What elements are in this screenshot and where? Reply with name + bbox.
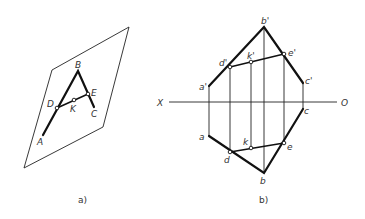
point-k [249, 146, 253, 150]
label-e-prime: e' [288, 48, 296, 58]
point-d [228, 150, 232, 154]
label-c-prime: c' [305, 76, 312, 86]
point-k [72, 98, 76, 102]
point-d-prime [228, 65, 232, 69]
label-k: k [243, 137, 249, 147]
figure-a: A B C D E K a) [24, 27, 129, 205]
projection-diagram: A B C D E K a) X O a' b' c' d' [0, 0, 365, 219]
label-B: B [75, 60, 81, 70]
figure-b: X O a' b' c' d' e' k' a b c d e k [156, 16, 348, 205]
point-e [86, 92, 90, 96]
caption-a: a) [78, 195, 87, 205]
label-e: e [287, 142, 293, 152]
label-C: C [91, 109, 98, 119]
axis-label-x: X [156, 98, 164, 108]
label-d-prime: d' [219, 58, 227, 68]
label-k-prime: k' [247, 51, 255, 61]
label-D: D [47, 99, 54, 109]
label-A: A [36, 137, 43, 147]
label-a: a [199, 132, 205, 142]
label-d: d [224, 155, 230, 165]
axis-label-o: O [341, 98, 348, 108]
caption-b: b) [259, 195, 268, 205]
point-d [55, 106, 59, 110]
label-c: c [304, 106, 309, 116]
label-b: b [260, 176, 266, 186]
line-de-top [230, 143, 284, 152]
label-b-prime: b' [261, 16, 269, 26]
label-E: E [91, 88, 97, 98]
label-K: K [70, 104, 77, 114]
label-a-prime: a' [199, 82, 207, 92]
point-e [282, 141, 286, 145]
point-e-prime [282, 52, 286, 56]
